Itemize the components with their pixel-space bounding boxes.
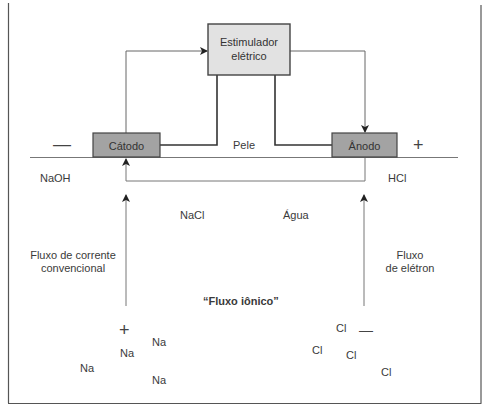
conventional-current-label: Fluxo de corrente convencional xyxy=(22,249,124,275)
water-label: Água xyxy=(283,209,309,222)
cl-ion: Cl xyxy=(381,366,391,379)
cathode-label: Cátodo xyxy=(93,139,160,153)
anode-label: Ânodo xyxy=(332,139,397,153)
cl-ion: Cl xyxy=(346,349,356,362)
cl-ion: Cl xyxy=(312,344,322,357)
wire-to-cathode xyxy=(160,75,217,145)
electron-flow-label: Fluxo de elétron xyxy=(375,249,445,275)
return-loop xyxy=(126,157,365,181)
stimulator-label-line2: elétrico xyxy=(208,49,290,63)
positive-ion-sign: + xyxy=(119,321,130,339)
na-ion: Na xyxy=(120,347,134,360)
electron-flow-line2: de elétron xyxy=(375,262,445,275)
na-ion: Na xyxy=(80,362,94,375)
negative-ion-sign: — xyxy=(359,321,373,339)
na-ion: Na xyxy=(152,374,166,387)
stimulator-label: Estimulador elétrico xyxy=(208,35,290,63)
cl-ion: Cl xyxy=(336,322,346,335)
skin-label: Pele xyxy=(233,139,255,152)
conventional-loop-right xyxy=(290,51,365,132)
stimulator-label-line1: Estimulador xyxy=(208,35,290,49)
ionic-flow-label: “Fluxo iônico” xyxy=(203,295,279,308)
anode-sign: + xyxy=(413,136,424,154)
wire-to-anode xyxy=(275,75,332,145)
cathode-sign: — xyxy=(53,135,71,153)
electron-flow-line1: Fluxo xyxy=(375,249,445,262)
conventional-current-line2: convencional xyxy=(22,262,124,275)
nacl-label: NaCl xyxy=(180,209,204,222)
naoh-label: NaOH xyxy=(40,172,71,185)
conventional-loop-left xyxy=(126,51,207,133)
conventional-current-line1: Fluxo de corrente xyxy=(22,249,124,262)
na-ion: Na xyxy=(152,336,166,349)
hcl-label: HCl xyxy=(388,172,406,185)
